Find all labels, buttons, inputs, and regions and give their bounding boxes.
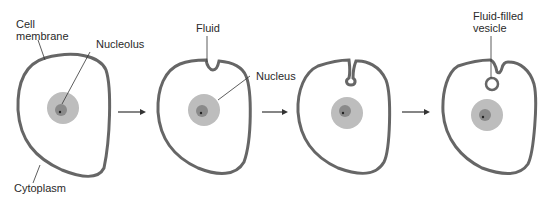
label-cell-membrane-1: Cell	[16, 18, 35, 30]
label-fluid: Fluid	[196, 22, 220, 34]
label-vesicle-2: vesicle	[473, 22, 507, 34]
arrow-1	[118, 109, 146, 115]
label-cell-membrane-2: membrane	[16, 30, 69, 42]
arrow-3	[402, 109, 430, 115]
label-nucleolus: Nucleolus	[96, 38, 144, 50]
pinocytosis-diagram	[0, 0, 545, 204]
arrow-2	[262, 109, 288, 115]
label-vesicle-1: Fluid-filled	[473, 10, 523, 22]
label-nucleus: Nucleus	[256, 70, 296, 82]
cell-stage-3	[298, 60, 390, 173]
cell-stage-2	[158, 36, 250, 173]
vesicle	[486, 78, 498, 90]
cell-stage-1	[18, 40, 110, 183]
cell-stage-4	[443, 36, 536, 174]
label-cytoplasm: Cytoplasm	[14, 182, 66, 194]
nucleolus	[55, 104, 67, 116]
